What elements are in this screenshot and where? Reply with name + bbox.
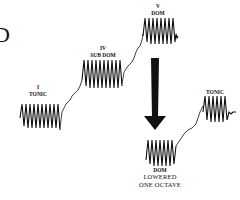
harmonic-progression-diagram: D I TONIC IV SUB DOM V DOM DOM: [0, 0, 240, 200]
label-subdominant: IV SUB DOM: [90, 45, 116, 58]
connector-dominant-to-tonic: [176, 106, 203, 146]
stage-name: DOM: [151, 10, 164, 17]
down-arrow-icon: [144, 58, 166, 130]
description-line-2: ONE OCTAVE: [139, 181, 181, 189]
waveform-canvas: [0, 0, 240, 200]
connector-subdominant-to-dominant: [122, 34, 143, 84]
label-dominant: V DOM: [151, 3, 164, 16]
waveform-tonic-2: [203, 96, 236, 122]
description-line-1: LOWERED: [139, 173, 181, 181]
label-tonic-2: TONIC: [206, 89, 224, 96]
stage-name: SUB DOM: [90, 52, 116, 59]
label-lowered-description: LOWERED ONE OCTAVE: [139, 173, 181, 189]
waveform-subdominant: [82, 60, 122, 88]
stage-name: TONIC: [29, 91, 47, 98]
waveform-tonic-1: [20, 104, 60, 130]
waveform-dominant-lowered: [146, 140, 176, 166]
connector-tonic-to-subdominant: [60, 80, 82, 128]
waveform-dominant: [143, 18, 178, 44]
label-tonic-1: I TONIC: [29, 84, 47, 97]
stage-name: TONIC: [206, 89, 224, 96]
